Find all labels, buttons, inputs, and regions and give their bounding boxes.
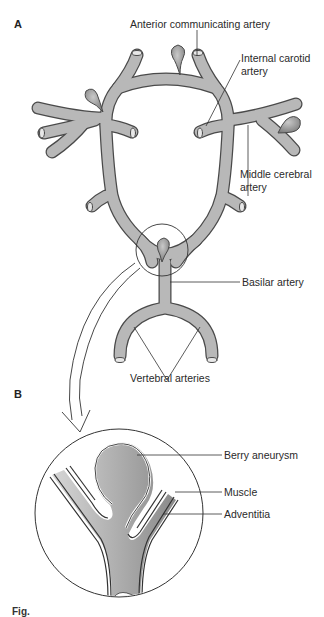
label-middle-cerebral-2: artery <box>240 181 267 193</box>
label-vertebral-arteries: Vertebral arteries <box>130 372 210 384</box>
label-berry-aneurysm: Berry aneurysm <box>224 449 298 461</box>
label-anterior-communicating-artery: Anterior communicating artery <box>130 18 270 30</box>
panel-a-label: A <box>14 18 22 30</box>
label-internal-carotid-1: Internal carotid <box>241 52 310 64</box>
label-basilar-artery: Basilar artery <box>242 276 304 288</box>
label-internal-carotid-2: artery <box>241 65 268 77</box>
panel-b-label: B <box>14 388 22 400</box>
label-adventitia: Adventitia <box>224 508 270 520</box>
vessel-network <box>38 51 296 363</box>
magnify-arrow <box>62 263 140 432</box>
figure-caption: Fig. <box>12 606 30 617</box>
label-muscle: Muscle <box>224 486 257 498</box>
label-middle-cerebral-1: Middle cerebral <box>240 168 312 180</box>
